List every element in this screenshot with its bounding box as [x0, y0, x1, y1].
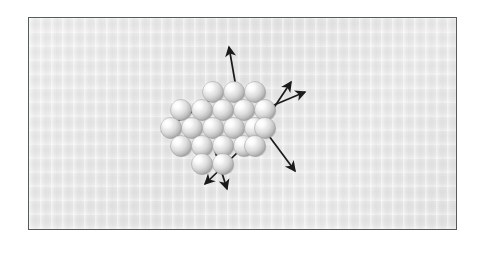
sphere — [213, 154, 235, 176]
sphere — [171, 136, 193, 158]
sphere-layer — [161, 82, 277, 176]
sphere — [192, 154, 214, 176]
cluster-scene — [29, 18, 457, 230]
figure-panel — [28, 17, 457, 230]
figure-root: Cluster of spheres with radiating arrows… — [0, 0, 480, 254]
arrow-lower-right — [269, 136, 295, 171]
sphere — [245, 136, 267, 158]
